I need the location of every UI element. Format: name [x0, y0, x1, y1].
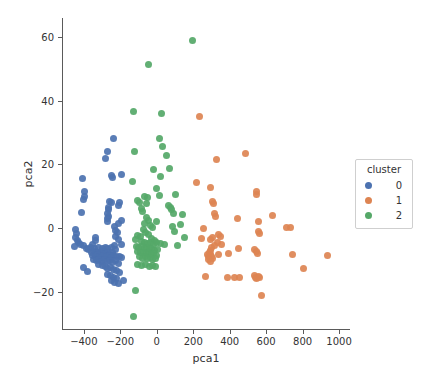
- legend-entry-0[interactable]: 0: [361, 178, 407, 193]
- scatter-point-cluster-2: [177, 221, 184, 228]
- scatter-point-cluster-0: [84, 268, 91, 275]
- y-axis-spine: [62, 18, 63, 330]
- legend-swatch-icon: [365, 182, 372, 189]
- scatter-point-cluster-2: [149, 224, 156, 231]
- scatter-point-cluster-1: [255, 218, 262, 225]
- scatter-point-cluster-1: [242, 150, 249, 157]
- x-tick-mark: [84, 330, 85, 334]
- legend-entry-label: 2: [396, 210, 402, 221]
- scatter-point-cluster-1: [256, 230, 263, 237]
- scatter-point-cluster-0: [80, 196, 87, 203]
- y-tick-label: 60: [41, 32, 54, 43]
- y-tick-mark: [58, 228, 62, 229]
- scatter-point-cluster-0: [104, 218, 111, 225]
- scatter-point-cluster-2: [170, 210, 177, 217]
- x-tick-label: 0: [154, 336, 160, 347]
- scatter-point-cluster-2: [156, 135, 163, 142]
- x-tick-label: 1000: [326, 336, 351, 347]
- legend-entries: 012: [361, 178, 407, 223]
- scatter-point-cluster-2: [159, 143, 166, 150]
- scatter-point-cluster-2: [156, 192, 163, 199]
- legend-swatch-icon: [365, 212, 372, 219]
- x-tick-label: 800: [293, 336, 312, 347]
- scatter-point-cluster-1: [256, 274, 263, 281]
- scatter-point-cluster-1: [213, 156, 220, 163]
- y-tick-label: 20: [41, 159, 54, 170]
- scatter-point-cluster-2: [157, 173, 164, 180]
- legend-swatch-icon: [365, 197, 372, 204]
- x-axis-spine: [62, 329, 350, 330]
- x-axis-label: pca1: [62, 352, 350, 365]
- y-tick-label: 0: [48, 223, 54, 234]
- legend-title: cluster: [361, 164, 407, 175]
- x-tick-mark: [339, 330, 340, 334]
- scatter-point-cluster-1: [258, 292, 265, 299]
- scatter-point-cluster-2: [131, 148, 138, 155]
- scatter-plot-figure: −400−20002004006008001000 −200204060 pca…: [0, 0, 424, 384]
- scatter-point-cluster-1: [218, 241, 225, 248]
- scatter-point-cluster-2: [172, 191, 179, 198]
- x-tick-label: 600: [257, 336, 276, 347]
- scatter-point-cluster-2: [174, 242, 181, 249]
- legend-entry-1[interactable]: 1: [361, 193, 407, 208]
- scatter-point-cluster-2: [166, 165, 173, 172]
- y-tick-mark: [58, 164, 62, 165]
- legend-entry-2[interactable]: 2: [361, 208, 407, 223]
- scatter-point-cluster-2: [171, 228, 178, 235]
- scatter-point-cluster-2: [153, 185, 160, 192]
- scatter-point-cluster-0: [115, 280, 122, 287]
- scatter-point-cluster-1: [202, 273, 209, 280]
- scatter-point-cluster-2: [130, 108, 137, 115]
- scatter-point-cluster-2: [179, 211, 186, 218]
- scatter-point-cluster-0: [115, 260, 122, 267]
- scatter-point-cluster-1: [225, 250, 232, 257]
- scatter-point-cluster-1: [215, 251, 222, 258]
- y-tick-label: −20: [33, 286, 54, 297]
- scatter-point-cluster-0: [110, 135, 117, 142]
- scatter-point-cluster-0: [118, 171, 125, 178]
- scatter-point-cluster-1: [210, 200, 217, 207]
- scatter-point-cluster-1: [235, 245, 242, 252]
- scatter-point-cluster-2: [152, 263, 159, 270]
- scatter-point-cluster-1: [269, 212, 276, 219]
- scatter-point-cluster-1: [207, 258, 214, 265]
- y-axis-label-wrapper: pca2: [8, 18, 28, 330]
- scatter-point-cluster-2: [189, 37, 196, 44]
- scatter-point-cluster-2: [158, 110, 165, 117]
- y-tick-mark: [58, 101, 62, 102]
- scatter-point-cluster-1: [254, 250, 261, 257]
- scatter-point-cluster-1: [207, 184, 214, 191]
- scatter-point-cluster-2: [129, 178, 136, 185]
- scatter-point-cluster-1: [198, 235, 205, 242]
- legend-box[interactable]: cluster 012: [355, 159, 413, 229]
- x-tick-label: −400: [70, 336, 97, 347]
- scatter-point-cluster-0: [115, 202, 122, 209]
- scatter-point-cluster-1: [324, 252, 331, 259]
- x-tick-mark: [230, 330, 231, 334]
- scatter-point-cluster-2: [132, 287, 139, 294]
- scatter-point-cluster-1: [234, 215, 241, 222]
- x-tick-mark: [120, 330, 121, 334]
- plot-axes-area: −400−20002004006008001000 −200204060: [62, 18, 350, 330]
- scatter-point-cluster-1: [253, 191, 260, 198]
- scatter-point-cluster-1: [289, 251, 296, 258]
- legend-entry-label: 0: [396, 180, 402, 191]
- scatter-point-cluster-0: [79, 175, 86, 182]
- scatter-point-cluster-1: [196, 113, 203, 120]
- scatter-point-cluster-1: [300, 265, 307, 272]
- x-tick-label: −200: [107, 336, 134, 347]
- scatter-point-cluster-2: [130, 313, 137, 320]
- y-axis-label: pca2: [22, 18, 35, 330]
- scatter-point-cluster-1: [212, 213, 219, 220]
- scatter-point-cluster-1: [193, 179, 200, 186]
- y-tick-label: 40: [41, 95, 54, 106]
- scatter-point-cluster-0: [118, 241, 125, 248]
- legend-entry-label: 1: [396, 195, 402, 206]
- x-tick-mark: [303, 330, 304, 334]
- scatter-point-cluster-1: [236, 274, 243, 281]
- scatter-point-cluster-0: [78, 209, 85, 216]
- x-tick-mark: [193, 330, 194, 334]
- x-tick-label: 200: [184, 336, 203, 347]
- scatter-point-cluster-1: [287, 224, 294, 231]
- x-tick-mark: [266, 330, 267, 334]
